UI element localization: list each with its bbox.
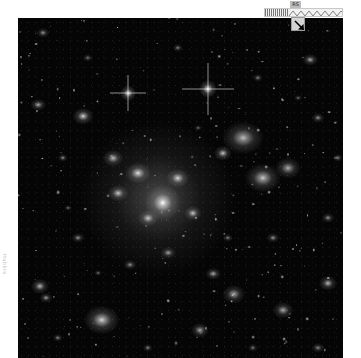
background-noise: [18, 18, 343, 358]
side-caption: Hubble: [2, 254, 8, 275]
image-viewer[interactable]: [18, 18, 343, 358]
arrow-diagonal-icon: [292, 18, 306, 32]
ruler-zigzag-icon: [265, 9, 343, 17]
zoom-scale-ruler[interactable]: [264, 8, 343, 17]
pan-navigator-button[interactable]: [291, 17, 305, 31]
scale-badge[interactable]: RS: [290, 1, 301, 8]
